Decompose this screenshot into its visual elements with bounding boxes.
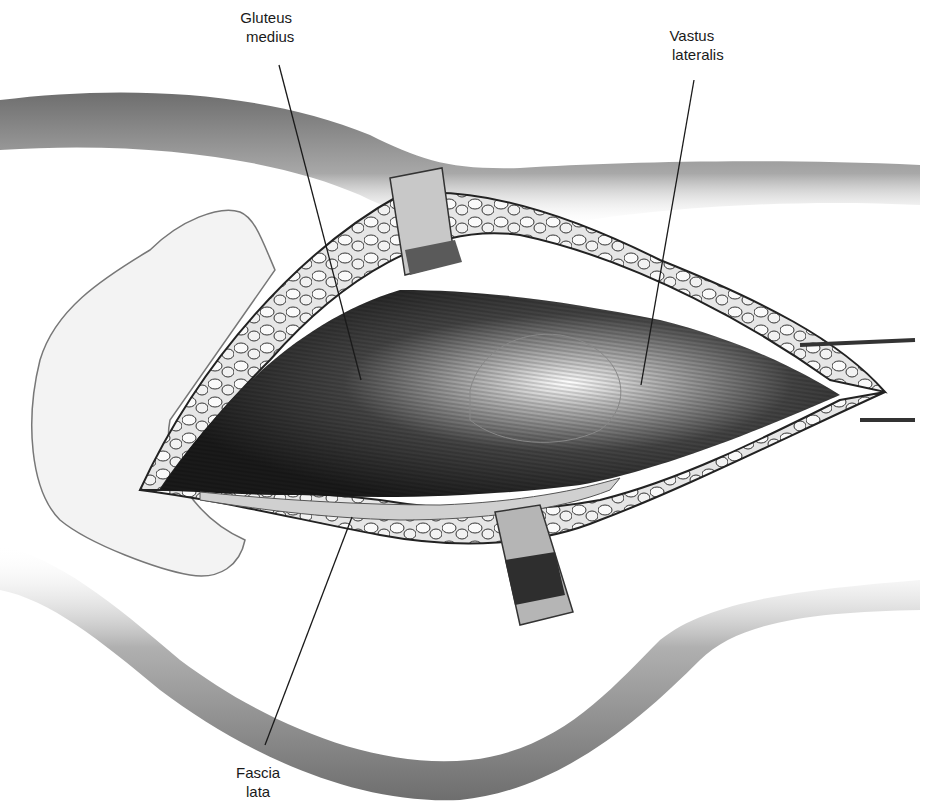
label-vastus-lateralis-line1: Vastus xyxy=(660,26,724,45)
label-fascia-lata-line2: lata xyxy=(236,782,280,801)
label-gluteus-medius: Gluteus medius xyxy=(238,8,294,46)
skin-contour-bottom xyxy=(0,545,920,800)
label-fascia-lata-line1: Fascia xyxy=(236,763,280,782)
surgical-illustration xyxy=(0,0,930,805)
label-vastus-lateralis-line2: lateralis xyxy=(660,45,724,64)
label-gluteus-medius-line1: Gluteus xyxy=(238,8,294,27)
label-gluteus-medius-line2: medius xyxy=(238,27,294,46)
label-vastus-lateralis: Vastus lateralis xyxy=(660,26,724,64)
leader-line-fascia-lata xyxy=(265,517,352,745)
label-fascia-lata: Fascia lata xyxy=(236,763,280,801)
